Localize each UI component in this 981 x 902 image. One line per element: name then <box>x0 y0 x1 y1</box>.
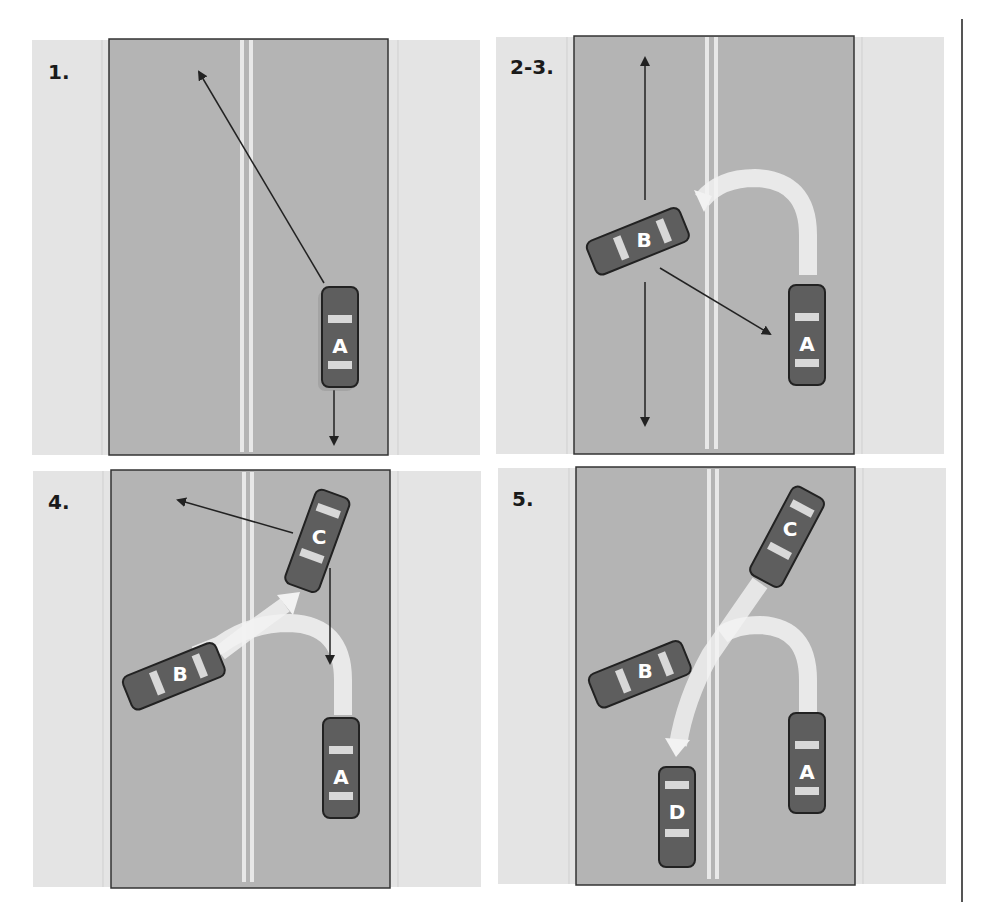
panel-label: 4. <box>48 490 70 514</box>
road-scene-4: C B D A <box>490 455 981 902</box>
svg-text:B: B <box>172 662 187 686</box>
road-scene-2: B A <box>490 0 981 460</box>
car-A: A <box>323 718 359 818</box>
car-D: D <box>659 767 695 867</box>
panel-2-3: B A 2-3. <box>490 0 981 460</box>
panel-label: 2-3. <box>510 55 554 79</box>
svg-text:A: A <box>333 765 349 789</box>
divider <box>961 19 963 902</box>
road <box>109 39 388 455</box>
lane-line <box>240 40 244 452</box>
car-A: A <box>318 287 358 391</box>
svg-text:C: C <box>312 525 327 549</box>
svg-text:D: D <box>669 800 686 824</box>
road-scene-1: A <box>0 0 490 460</box>
road-scene-3: C B A <box>0 455 490 902</box>
car-A: A <box>789 285 825 385</box>
svg-text:A: A <box>799 760 815 784</box>
svg-text:B: B <box>636 228 651 252</box>
svg-text:B: B <box>637 659 652 683</box>
svg-text:C: C <box>783 517 798 541</box>
panel-label: 1. <box>48 60 70 84</box>
car-A: A <box>789 713 825 813</box>
panel-label: 5. <box>512 487 534 511</box>
lane-line <box>249 40 253 452</box>
panel-4: C B A 4. <box>0 455 490 902</box>
panel-5: C B D A 5. <box>490 455 981 902</box>
panel-1: A 1. <box>0 0 490 460</box>
svg-text:A: A <box>799 332 815 356</box>
svg-text:A: A <box>332 334 348 358</box>
